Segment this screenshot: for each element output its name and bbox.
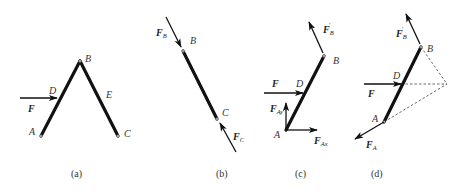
panel-c: A B D F FB′ FAy FAx (c) xyxy=(264,21,339,180)
label-force-f: F xyxy=(27,103,35,114)
label-e: E xyxy=(105,89,112,100)
hinge-b xyxy=(181,49,184,52)
label-a: A xyxy=(371,113,379,124)
member-bc xyxy=(80,61,118,136)
line-of-action-b xyxy=(421,47,447,84)
label-b: B xyxy=(333,55,339,66)
label-force-fb: FB xyxy=(155,27,167,39)
label-force-fa: FA xyxy=(365,139,377,151)
label-b: B xyxy=(190,35,196,46)
caption-c: (c) xyxy=(295,168,306,180)
caption-b: (b) xyxy=(216,168,228,180)
hinge-b xyxy=(322,54,325,57)
label-force-fb-prime: FB′ xyxy=(395,25,407,40)
label-c: C xyxy=(222,107,229,118)
caption-a: (a) xyxy=(71,168,82,180)
label-force-fax: FAx xyxy=(313,135,328,147)
label-a: A xyxy=(273,129,281,140)
force-fb-prime-arrow xyxy=(406,14,420,44)
panel-a: A B C D E F (a) xyxy=(20,53,131,180)
caption-d: (d) xyxy=(371,168,383,180)
hinge-b xyxy=(419,45,422,48)
hinge-c xyxy=(215,117,218,120)
hinge-b xyxy=(78,59,81,62)
label-b: B xyxy=(85,53,91,64)
hinge-c xyxy=(116,134,119,137)
force-fb-prime-arrow xyxy=(309,22,323,53)
label-d: D xyxy=(295,78,304,89)
hinge-a xyxy=(39,134,42,137)
statics-figure: A B C D E F (a) B C FB FC (b) A B D F xyxy=(0,0,464,192)
label-d: D xyxy=(392,70,401,81)
force-fa-arrow xyxy=(355,122,384,139)
label-force-f: F xyxy=(271,78,279,89)
label-force-f: F xyxy=(367,88,375,99)
label-force-fc: FC xyxy=(232,131,245,143)
member-bc xyxy=(183,51,217,119)
label-d: D xyxy=(48,85,57,96)
panel-b: B C FB FC (b) xyxy=(155,17,245,180)
label-c: C xyxy=(124,128,131,139)
label-force-fay: FAy xyxy=(269,103,283,115)
label-a: A xyxy=(28,126,36,137)
force-fb-arrow xyxy=(166,17,181,47)
label-b: B xyxy=(427,43,433,54)
panel-d: A B D F FB′ FA (d) xyxy=(355,14,447,180)
label-force-fb-prime: FB′ xyxy=(322,21,334,36)
